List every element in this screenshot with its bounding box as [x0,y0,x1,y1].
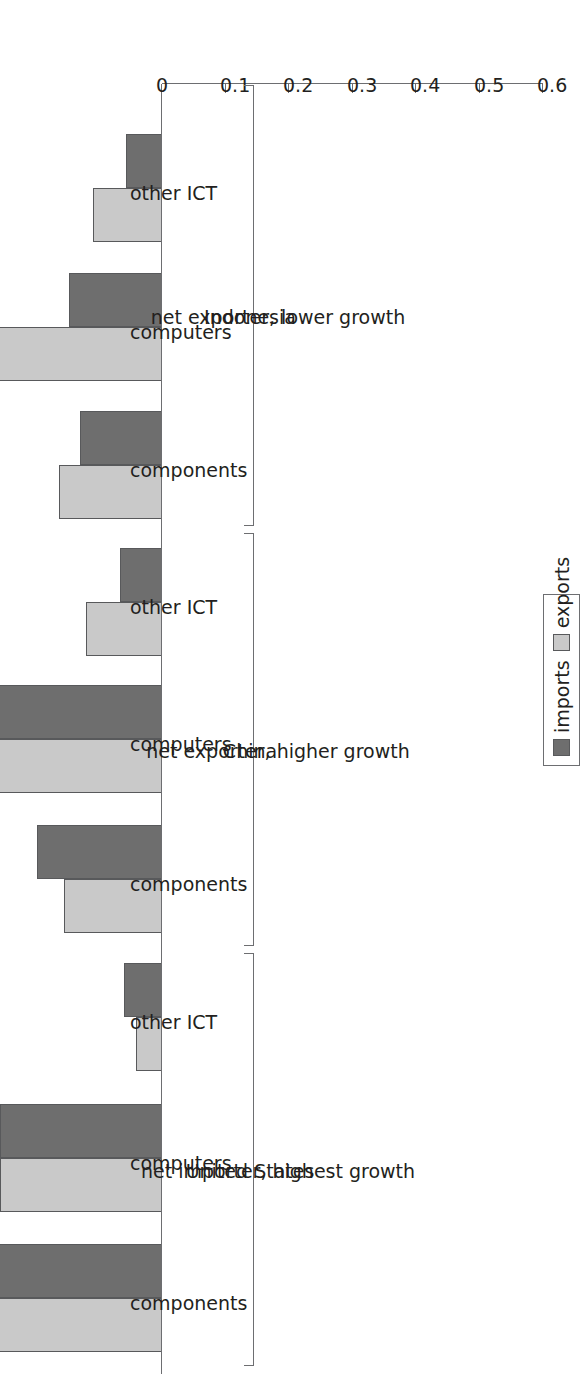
category-label: other ICT [130,596,217,618]
group-separator-cap [244,525,254,526]
value-axis-label: 0.2 [283,74,313,96]
bar-imports [37,825,162,879]
group-subtitle-label: net exporter, lower growth [151,306,405,328]
group-separator-cap [244,85,254,86]
group-subtitle-label: net importer, highest growth [141,1160,415,1182]
category-label: components [130,1292,247,1314]
bar-imports [0,1104,162,1158]
bar-imports [0,1244,162,1298]
value-axis-label: 0.5 [474,74,504,96]
category-label: components [130,459,247,481]
group-separator-cap [244,533,254,534]
chart-legend: importsexports [543,594,580,766]
bar-imports [80,411,162,465]
group-subtitle-label: net exporter, higher growth [146,740,409,762]
group-separator-cap [244,953,254,954]
group-separator-cap [244,1365,254,1366]
value-axis-label: 0 [156,74,168,96]
legend-label: imports [551,660,573,733]
category-label: other ICT [130,1011,217,1033]
category-label: components [130,873,247,895]
bar-imports [69,273,162,327]
bar-imports [124,963,162,1017]
value-axis-label: 0.3 [347,74,377,96]
category-label: other ICT [130,182,217,204]
chart-stage: 00.10.20.30.40.50.6componentscomputersot… [0,0,584,1374]
legend-item: imports [551,660,573,756]
legend-item: exports [551,557,573,651]
value-axis-label: 0.6 [537,74,567,96]
legend-swatch-imports [553,739,570,756]
group-separator-cap [244,945,254,946]
legend-label: exports [551,557,573,628]
bar-chart-plot: 00.10.20.30.40.50.6componentscomputersot… [0,0,584,1374]
value-axis-label: 0.4 [410,74,440,96]
bar-imports [126,134,162,188]
legend-swatch-exports [553,634,570,651]
bar-imports [0,685,162,739]
bar-imports [120,548,162,602]
